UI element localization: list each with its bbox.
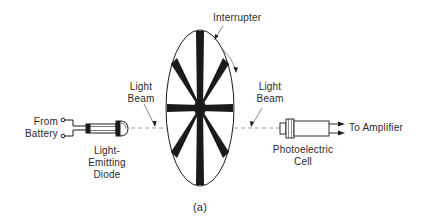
interrupter-disk — [166, 30, 234, 186]
to-amplifier-label: To Amplifier — [349, 122, 403, 134]
led-line1: Light- — [84, 145, 130, 157]
led-line2: Emitting — [84, 157, 130, 169]
from-battery-line1: From — [18, 116, 58, 128]
from-battery-label: From Battery — [18, 116, 58, 140]
light-beam-left-leader — [144, 104, 157, 127]
photoelectric-cell-label: Photoelectric Cell — [268, 144, 338, 168]
photoelectric-cell — [280, 119, 329, 138]
led-label: Light- Emitting Diode — [84, 145, 130, 181]
led-line3: Diode — [84, 169, 130, 181]
light-emitting-diode — [86, 121, 128, 136]
interrupter-leader — [215, 26, 224, 40]
amplifier-output-wires — [329, 122, 345, 136]
photo-line2: Cell — [268, 156, 338, 168]
diagram-graphics — [0, 0, 428, 224]
battery-terminals — [61, 118, 87, 138]
light-beam-left-label: Light Beam — [124, 81, 158, 105]
light-beam-left-line2: Beam — [124, 93, 158, 105]
optical-interrupter-diagram: Interrupter Light Beam Light Beam From B… — [0, 0, 428, 224]
light-beam-right-line2: Beam — [253, 93, 287, 105]
interrupter-label: Interrupter — [213, 12, 261, 24]
light-beam-right-label: Light Beam — [253, 81, 287, 105]
photo-line1: Photoelectric — [268, 144, 338, 156]
light-beam-right-leader — [250, 108, 262, 127]
figure-caption: (a) — [185, 201, 215, 213]
from-battery-line2: Battery — [18, 128, 58, 140]
light-beam-left-line1: Light — [124, 81, 158, 93]
light-beam-right-line1: Light — [253, 81, 287, 93]
